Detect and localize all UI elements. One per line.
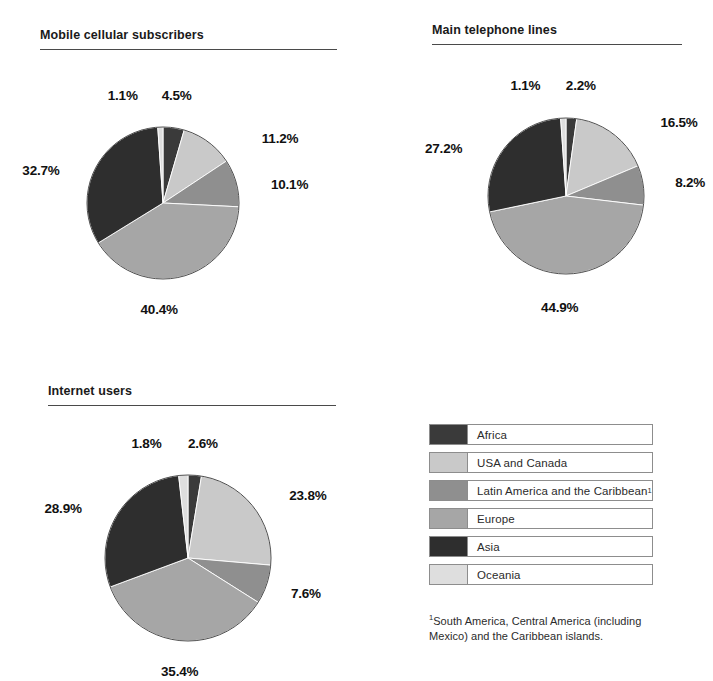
pie-chart-main-telephone-lines: 2.2%16.5%8.2%44.9%27.2%1.1% [484,114,648,278]
legend-footnote-marker: 1 [648,486,652,495]
legend-footnote: 1South America, Central America (includi… [429,613,669,645]
pie-label-latin_america: 7.6% [291,585,321,600]
pie-label-usa_canada: 23.8% [289,487,326,502]
legend-swatch-asia [430,537,468,556]
pie-label-europe: 35.4% [161,663,198,678]
legend-item-latin_america[interactable]: Latin America and the Caribbean1 [429,480,653,501]
pie-label-europe: 40.4% [141,302,178,317]
legend-swatch-oceania [430,565,468,584]
pie-slice-usa_canada[interactable] [188,476,271,565]
legend-item-europe[interactable]: Europe [429,508,653,529]
title-rule [48,405,336,406]
pie-label-oceania: 1.1% [108,88,138,103]
pie-label-oceania: 1.1% [510,78,540,93]
pie-label-africa: 2.2% [566,78,596,93]
chart-legend: AfricaUSA and CanadaLatin America and th… [429,424,653,592]
legend-label-oceania: Oceania [468,565,521,584]
legend-label-europe: Europe [468,509,515,528]
panel-mobile-cellular-subscribers: Mobile cellular subscribers [40,28,337,50]
pie-slice-asia[interactable] [488,118,566,212]
pie-label-asia: 28.9% [44,501,81,516]
pie-label-asia: 27.2% [425,140,462,155]
chart-title-internet-users: Internet users [48,384,336,398]
pie-label-usa_canada: 16.5% [660,114,697,129]
pie-slice-europe[interactable] [490,196,644,274]
pie-label-latin_america: 8.2% [675,174,705,189]
legend-item-asia[interactable]: Asia [429,536,653,557]
pie-label-latin_america: 10.1% [271,177,308,192]
legend-item-oceania[interactable]: Oceania [429,564,653,585]
legend-label-latin_america: Latin America and the Caribbean1 [468,481,652,500]
pie-label-oceania: 1.8% [132,436,162,451]
chart-title-mobile-cellular-subscribers: Mobile cellular subscribers [40,28,337,42]
legend-label-africa: Africa [468,425,507,444]
legend-label-usa_canada: USA and Canada [468,453,567,472]
legend-swatch-africa [430,425,468,444]
pie-label-europe: 44.9% [541,299,578,314]
pie-label-africa: 4.5% [162,88,192,103]
legend-label-asia: Asia [468,537,500,556]
pie-chart-internet-users: 2.6%23.8%7.6%35.4%28.9%1.8% [101,471,275,645]
legend-item-africa[interactable]: Africa [429,424,653,445]
legend-swatch-latin_america [430,481,468,500]
title-rule [432,44,682,45]
title-rule [40,49,337,50]
legend-swatch-usa_canada [430,453,468,472]
footnote-text: South America, Central America (includin… [429,615,641,643]
pie-svg [484,114,648,278]
pie-svg [101,471,275,645]
pie-svg [83,123,243,283]
panel-main-telephone-lines: Main telephone lines [432,23,682,45]
legend-swatch-europe [430,509,468,528]
pie-chart-mobile-cellular-subscribers: 4.5%11.2%10.1%40.4%32.7%1.1% [83,123,243,283]
legend-item-usa_canada[interactable]: USA and Canada [429,452,653,473]
pie-label-usa_canada: 11.2% [262,130,299,145]
pie-label-africa: 2.6% [188,436,218,451]
panel-internet-users: Internet users [48,384,336,406]
pie-label-asia: 32.7% [22,162,59,177]
chart-title-main-telephone-lines: Main telephone lines [432,23,682,37]
